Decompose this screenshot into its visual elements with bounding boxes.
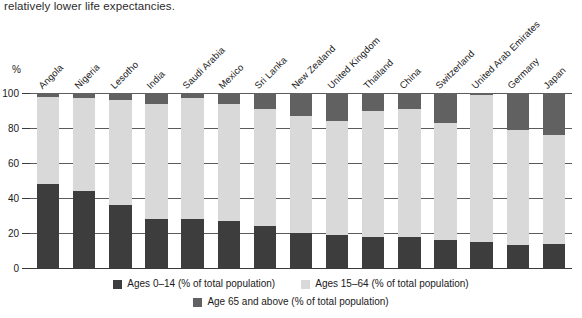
segment-ages-0-14 xyxy=(290,233,312,268)
y-tick-label-100: 100 xyxy=(2,88,19,99)
y-tick-0 xyxy=(22,268,30,269)
segment-ages-0-14 xyxy=(434,240,456,268)
segment-ages-15-64 xyxy=(362,111,384,237)
segment-age-65-above xyxy=(507,93,529,130)
segment-ages-0-14 xyxy=(326,235,348,268)
legend-swatch-age-65-above xyxy=(193,298,202,307)
y-axis-unit-label: % xyxy=(12,64,21,75)
y-tick-label-40: 40 xyxy=(8,193,19,204)
segment-ages-15-64 xyxy=(290,116,312,233)
segment-ages-15-64 xyxy=(254,109,276,226)
y-tick-60 xyxy=(22,163,30,164)
bar-saudi-arabia: Saudi Arabia xyxy=(181,93,203,268)
y-tick-100 xyxy=(22,93,30,94)
segment-ages-15-64 xyxy=(181,98,203,219)
gridline-0 xyxy=(30,268,572,269)
segment-age-65-above xyxy=(398,93,420,109)
plot-area: 020406080100AngolaNigeriaLesothoIndiaSau… xyxy=(30,93,572,268)
segment-ages-0-14 xyxy=(507,245,529,268)
segment-age-65-above xyxy=(73,93,95,98)
body-text-line: relatively lower life expectancies. xyxy=(4,0,175,12)
legend-row-1: Ages 0–14 (% of total population) Ages 1… xyxy=(0,279,582,289)
legend-row-2: Age 65 and above (% of total population) xyxy=(0,297,582,307)
x-axis-label-japan: Japan xyxy=(542,65,568,91)
segment-ages-15-64 xyxy=(218,104,240,221)
population-age-structure-chart: % 020406080100AngolaNigeriaLesothoIndiaS… xyxy=(0,36,582,276)
bar-japan: Japan xyxy=(543,93,565,268)
y-tick-20 xyxy=(22,233,30,234)
y-tick-label-80: 80 xyxy=(8,123,19,134)
segment-ages-0-14 xyxy=(398,237,420,269)
legend-swatch-ages-15-64 xyxy=(301,280,310,289)
x-axis-label-india: India xyxy=(144,68,167,91)
segment-ages-0-14 xyxy=(218,221,240,268)
bar-united-kingdom: United Kingdom xyxy=(326,93,348,268)
x-axis-label-china: China xyxy=(397,65,423,91)
legend-item-ages-15-64: Ages 15–64 (% of total population) xyxy=(301,279,468,289)
legend-item-age-65-above: Age 65 and above (% of total population) xyxy=(193,297,388,307)
segment-ages-0-14 xyxy=(254,226,276,268)
segment-age-65-above xyxy=(145,93,167,104)
segment-ages-0-14 xyxy=(362,237,384,269)
segment-ages-15-64 xyxy=(145,104,167,220)
segment-age-65-above xyxy=(326,93,348,121)
segment-age-65-above xyxy=(434,93,456,123)
body-text-block: relatively lower life expectancies. xyxy=(0,0,582,16)
x-axis-label-thailand: Thailand xyxy=(361,57,395,91)
segment-ages-15-64 xyxy=(543,135,565,244)
y-tick-80 xyxy=(22,128,30,129)
segment-ages-0-14 xyxy=(470,242,492,268)
segment-ages-0-14 xyxy=(37,184,59,268)
segment-age-65-above xyxy=(37,93,59,97)
segment-ages-15-64 xyxy=(37,97,59,185)
legend-label-ages-0-14: Ages 0–14 (% of total population) xyxy=(127,279,275,289)
segment-ages-15-64 xyxy=(434,123,456,240)
bar-thailand: Thailand xyxy=(362,93,384,268)
x-axis-label-nigeria: Nigeria xyxy=(72,61,102,91)
bar-switzerland: Switzerland xyxy=(434,93,456,268)
bar-new-zealand: New Zealand xyxy=(290,93,312,268)
segment-ages-15-64 xyxy=(326,121,348,235)
segment-age-65-above xyxy=(254,93,276,109)
segment-age-65-above xyxy=(290,93,312,116)
segment-ages-0-14 xyxy=(145,219,167,268)
y-tick-label-0: 0 xyxy=(13,263,19,274)
segment-age-65-above xyxy=(470,93,492,95)
x-axis-label-mexico: Mexico xyxy=(216,62,245,91)
bar-india: India xyxy=(145,93,167,268)
legend-label-ages-15-64: Ages 15–64 (% of total population) xyxy=(315,279,468,289)
segment-ages-0-14 xyxy=(181,219,203,268)
y-tick-40 xyxy=(22,198,30,199)
segment-age-65-above xyxy=(218,93,240,104)
bar-angola: Angola xyxy=(37,93,59,268)
segment-ages-15-64 xyxy=(109,100,131,205)
segment-ages-0-14 xyxy=(109,205,131,268)
segment-ages-15-64 xyxy=(73,98,95,191)
segment-age-65-above xyxy=(543,93,565,135)
segment-age-65-above xyxy=(109,93,131,100)
segment-ages-15-64 xyxy=(398,109,420,237)
segment-age-65-above xyxy=(181,93,203,98)
bar-lesotho: Lesotho xyxy=(109,93,131,268)
segment-ages-0-14 xyxy=(543,244,565,269)
x-axis-label-angola: Angola xyxy=(36,62,65,91)
legend-swatch-ages-0-14 xyxy=(113,280,122,289)
bar-nigeria: Nigeria xyxy=(73,93,95,268)
legend-label-age-65-above: Age 65 and above (% of total population) xyxy=(207,297,388,307)
chart-legend: Ages 0–14 (% of total population) Ages 1… xyxy=(0,279,582,307)
segment-age-65-above xyxy=(362,93,384,111)
segment-ages-0-14 xyxy=(73,191,95,268)
y-tick-label-20: 20 xyxy=(8,228,19,239)
segment-ages-15-64 xyxy=(470,95,492,242)
bar-sri-lanka: Sri Lanka xyxy=(254,93,276,268)
chart-page: relatively lower life expectancies. % 02… xyxy=(0,0,582,318)
y-tick-label-60: 60 xyxy=(8,158,19,169)
x-axis-label-germany: Germany xyxy=(506,55,542,91)
x-axis-label-sri-lanka: Sri Lanka xyxy=(253,54,290,91)
bar-germany: Germany xyxy=(507,93,529,268)
x-axis-label-lesotho: Lesotho xyxy=(108,59,140,91)
x-axis-label-united-arab-emirates: United Arab Emirates xyxy=(469,18,542,91)
bar-united-arab-emirates: United Arab Emirates xyxy=(470,93,492,268)
segment-ages-15-64 xyxy=(507,130,529,246)
bar-mexico: Mexico xyxy=(218,93,240,268)
